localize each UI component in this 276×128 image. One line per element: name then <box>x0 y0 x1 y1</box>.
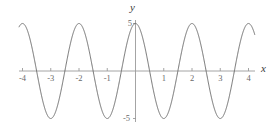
x-tick-label--1: -1 <box>98 74 116 83</box>
x-tick-label-1: 1 <box>155 74 173 83</box>
x-tick-label-3: 3 <box>211 74 229 83</box>
x-axis-label: x <box>261 63 266 74</box>
x-tick-label--4: -4 <box>14 74 32 83</box>
y-tick-label--5: -5 <box>114 114 130 123</box>
x-tick-label--2: -2 <box>70 74 88 83</box>
y-axis-label: y <box>130 2 135 13</box>
plot-canvas <box>0 0 276 128</box>
x-tick-label-2: 2 <box>183 74 201 83</box>
x-tick-label-4: 4 <box>240 74 258 83</box>
function-graph-figure: y x -4 -3 -2 -1 1 2 3 4 5 -5 <box>0 0 276 128</box>
y-tick-label-5: 5 <box>116 19 132 28</box>
x-tick-label--3: -3 <box>42 74 60 83</box>
